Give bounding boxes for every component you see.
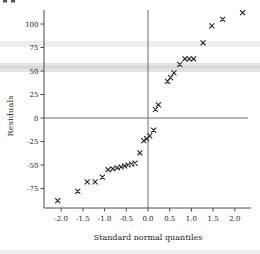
data-point-marker <box>138 151 142 155</box>
data-point-marker <box>191 57 195 61</box>
data-point-marker <box>240 11 244 15</box>
x-axis-title: Standard normal quantiles <box>88 233 208 242</box>
cropped-text-remnant <box>3 0 7 3</box>
qq-plot-figure: 1007550250-25-50-75-2.0-1.5-1.0-0.50.00.… <box>0 0 260 254</box>
data-point-marker <box>106 168 110 172</box>
data-point-marker <box>85 180 89 184</box>
data-point-marker <box>210 24 214 28</box>
data-point-marker <box>133 161 137 165</box>
scan-artifact-band <box>0 66 260 69</box>
data-point-marker <box>111 167 115 171</box>
y-tick-label: 0 <box>34 115 38 123</box>
data-point-marker <box>56 199 60 203</box>
data-point-marker <box>151 128 155 132</box>
x-tick-label: 0.5 <box>164 215 175 223</box>
data-point-marker <box>220 17 224 21</box>
y-tick-label: -50 <box>27 162 38 170</box>
y-tick-label: 75 <box>30 44 39 52</box>
scan-artifact-band <box>0 250 260 254</box>
x-tick-label: -1.0 <box>98 215 112 223</box>
cropped-text-remnant <box>11 0 15 3</box>
x-tick-label: 1.0 <box>186 215 197 223</box>
x-tick-label: 2.0 <box>229 215 240 223</box>
x-tick-label: -2.0 <box>54 215 68 223</box>
x-tick-label: -1.5 <box>76 215 90 223</box>
data-point-marker <box>168 75 172 79</box>
data-point-marker <box>93 180 97 184</box>
y-tick-label: 25 <box>30 91 39 99</box>
data-point-marker <box>100 175 104 179</box>
y-tick-label: 100 <box>25 21 38 29</box>
data-point-marker <box>187 57 191 61</box>
qq-plot-canvas: 1007550250-25-50-75-2.0-1.5-1.0-0.50.00.… <box>0 0 260 254</box>
x-tick-label: 0.0 <box>142 215 153 223</box>
y-axis-title: Residuals <box>6 93 16 139</box>
x-tick-label: 1.5 <box>208 215 219 223</box>
scan-artifact-band <box>0 41 260 47</box>
y-tick-label: -75 <box>27 185 38 193</box>
y-tick-label: -25 <box>27 138 38 146</box>
data-point-marker <box>76 189 80 193</box>
y-tick-label: 50 <box>30 68 39 76</box>
data-point-marker <box>183 57 187 61</box>
data-point-marker <box>153 107 157 111</box>
x-tick-label: -0.5 <box>120 215 134 223</box>
data-point-marker <box>156 103 160 107</box>
